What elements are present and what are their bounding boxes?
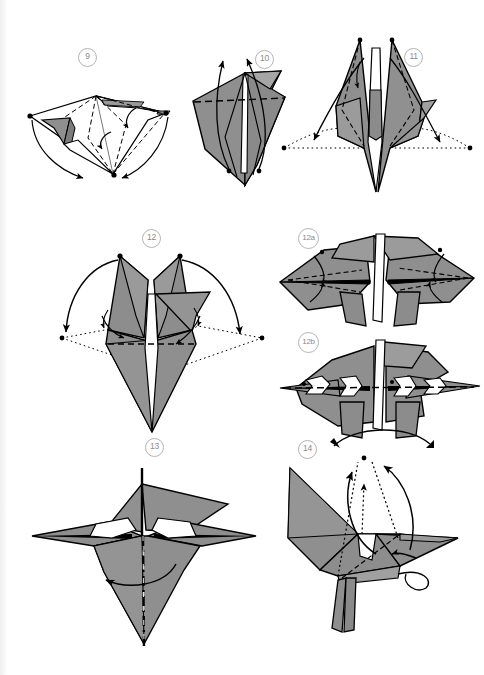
step-badge-14: 14 (298, 440, 317, 459)
figure-step-12 (48, 240, 278, 440)
figure-step-9 (18, 78, 198, 193)
step-badge-13: 13 (145, 438, 164, 457)
scan-edge-artifact (0, 0, 7, 675)
step-badge-12: 12 (142, 229, 161, 248)
step-badge-12a: 12a (298, 228, 319, 249)
step-badge-9: 9 (78, 48, 97, 67)
step-badge-11: 11 (404, 48, 423, 67)
step-badge-12b: 12b (298, 332, 319, 353)
figure-step-14 (280, 442, 480, 657)
step-badge-10: 10 (255, 50, 274, 69)
origami-instruction-page: 9 10 11 12 12a 12b 13 14 (0, 0, 484, 675)
figure-step-14-top-arc (330, 424, 440, 448)
figure-step-11 (272, 32, 484, 202)
figure-step-13 (24, 460, 268, 656)
